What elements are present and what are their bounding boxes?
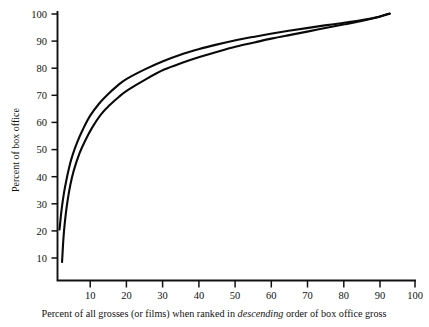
y-tick-label-50: 50: [37, 144, 48, 155]
x-tick-label-10: 10: [85, 290, 96, 301]
x-axis-title-emphasis: descending: [238, 308, 284, 319]
axis-spines: [58, 12, 416, 281]
y-tick-label-70: 70: [37, 90, 48, 101]
x-tick-label-80: 80: [339, 290, 350, 301]
x-axis-tick-labels: 10 20 30 40 50 60 70 80 90 100: [85, 290, 423, 301]
x-tick-label-40: 40: [194, 290, 205, 301]
x-tick-label-90: 90: [375, 290, 386, 301]
box-office-concentration-chart: 100 90 80 70 60 50 40 30 20 10 10: [0, 0, 429, 327]
x-axis-title-before: Percent of all grosses (or films) when r…: [42, 308, 238, 320]
y-axis-tick-labels: 100 90 80 70 60 50 40 30 20 10: [31, 9, 47, 264]
x-axis-title: Percent of all grosses (or films) when r…: [42, 308, 387, 320]
x-tick-label-70: 70: [302, 290, 313, 301]
y-tick-label-40: 40: [37, 172, 48, 183]
y-tick-label-100: 100: [31, 9, 47, 20]
x-tick-label-20: 20: [121, 290, 132, 301]
x-tick-label-60: 60: [266, 290, 277, 301]
x-tick-label-100: 100: [407, 290, 423, 301]
y-axis-title: Percent of box office: [10, 107, 21, 192]
x-tick-label-50: 50: [230, 290, 241, 301]
y-tick-label-10: 10: [37, 253, 48, 264]
lower-curve-path: [62, 14, 390, 262]
y-tick-label-60: 60: [37, 117, 48, 128]
y-tick-label-80: 80: [37, 63, 48, 74]
x-axis-title-after: order of box office gross: [283, 308, 386, 319]
chart-canvas: 100 90 80 70 60 50 40 30 20 10 10: [0, 0, 429, 327]
y-tick-label-90: 90: [37, 36, 48, 47]
x-axis-ticks: [90, 281, 415, 288]
axis-lines: [58, 12, 416, 281]
y-tick-label-30: 30: [37, 199, 48, 210]
upper-curve-path: [60, 13, 390, 229]
data-series-group: [60, 13, 390, 262]
x-tick-label-30: 30: [157, 290, 168, 301]
y-tick-label-20: 20: [37, 226, 48, 237]
